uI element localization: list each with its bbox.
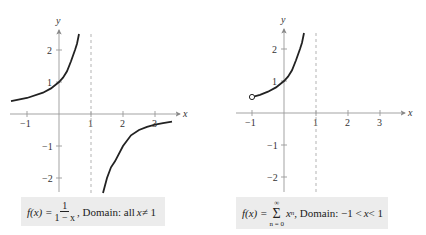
svg-text:1: 1 <box>272 76 277 87</box>
right-graph: x y −1 1 2 3 2 1 −1 −2 <box>236 14 413 192</box>
curve-upper-branch <box>11 34 79 101</box>
caption-lhs: f(x) = <box>27 206 52 218</box>
svg-text:2: 2 <box>47 45 52 56</box>
x-axis-label: x <box>407 107 413 118</box>
left-caption: f(x) = 1 1 − x , Domain: all x ≠ 1 <box>21 197 165 226</box>
open-endpoint-marker <box>249 94 254 99</box>
svg-text:1: 1 <box>88 118 93 129</box>
caption-lhs: f(x) = <box>242 207 267 219</box>
svg-text:−1: −1 <box>20 118 31 129</box>
svg-text:−1: −1 <box>267 140 278 151</box>
curve-series <box>255 33 305 96</box>
svg-text:−2: −2 <box>267 172 278 183</box>
y-axis-label: y <box>55 15 61 26</box>
curve-lower-branch <box>103 122 172 193</box>
svg-text:3: 3 <box>377 117 382 128</box>
svg-text:2: 2 <box>272 44 277 55</box>
svg-text:2: 2 <box>345 117 350 128</box>
svg-text:1: 1 <box>313 117 318 128</box>
svg-text:−2: −2 <box>42 173 53 184</box>
svg-text:3: 3 <box>152 118 157 129</box>
x-axis-label: x <box>182 108 188 119</box>
svg-text:−1: −1 <box>42 141 53 152</box>
svg-text:1: 1 <box>47 77 52 88</box>
summation: ∞ Σ n = 0 <box>269 199 283 228</box>
left-graph: x y −1 1 2 3 2 1 −1 −2 <box>10 15 188 193</box>
y-axis-label: y <box>280 14 286 25</box>
fraction: 1 1 − x <box>54 200 75 223</box>
right-caption: f(x) = ∞ Σ n = 0 xn , Domain: −1 < x < 1 <box>236 197 388 229</box>
svg-text:2: 2 <box>120 118 125 129</box>
svg-text:−1: −1 <box>245 117 256 128</box>
